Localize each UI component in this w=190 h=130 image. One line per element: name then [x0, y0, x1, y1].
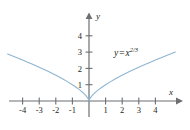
y-tick-label-4: 4 — [71, 32, 82, 41]
x-tick-label--4: -4 — [16, 106, 30, 115]
x-tick-label--2: -2 — [49, 106, 63, 115]
x-tick-label--3: -3 — [32, 106, 46, 115]
y-tick-label-3: 3 — [71, 48, 82, 57]
y-tick-label-2: 2 — [71, 65, 82, 74]
x-tick-label--1: -1 — [65, 106, 79, 115]
y-axis-label: y — [96, 12, 100, 21]
y-axis-arrowhead — [86, 13, 93, 20]
function-graph-figure: y x -4 -3 -2 -1 1 2 3 4 1 2 3 4 y=x2/3 — [0, 0, 190, 130]
function-curve — [8, 52, 176, 101]
equation-annotation: y=x2/3 — [114, 47, 138, 59]
y-tick-label-1: 1 — [71, 81, 82, 90]
axes-group — [9, 13, 183, 118]
equation-equals: = — [118, 48, 125, 58]
x-tick-label-1: 1 — [99, 106, 113, 115]
equation-exponent: 2/3 — [130, 46, 138, 53]
x-tick-label-2: 2 — [115, 106, 129, 115]
x-axis-label: x — [169, 88, 173, 97]
x-tick-label-4: 4 — [148, 106, 162, 115]
x-axis-arrowhead — [176, 98, 183, 105]
x-tick-label-3: 3 — [132, 106, 146, 115]
